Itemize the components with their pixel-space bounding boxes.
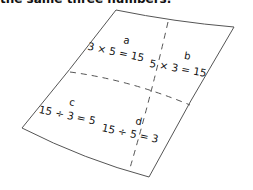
- folded-paper-diagram: a 3 × 5 = 15 b 5 × 3 = 15 c 15 ÷ 3 = 5 d…: [0, 0, 253, 190]
